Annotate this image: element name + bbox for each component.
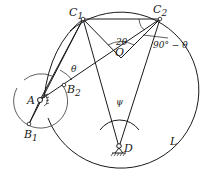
label-psi: ψ xyxy=(116,97,124,107)
psi-arc xyxy=(100,120,139,130)
angle-90-theta-arc xyxy=(139,19,145,30)
line-C1-D xyxy=(83,19,119,147)
label-A: A xyxy=(26,94,35,107)
label-O: O xyxy=(115,46,124,59)
line-A-C2 xyxy=(40,19,160,100)
label-C2: C2 xyxy=(153,3,167,18)
linkage-diagram: C1 C2 A B1 B2 O D L θ 2θ ψ 90° − θ xyxy=(0,0,209,182)
label-D: D xyxy=(123,142,133,155)
label-90-minus-theta: 90° − θ xyxy=(153,40,188,50)
label-B2: B2 xyxy=(66,83,81,98)
tangent-line-C2 xyxy=(143,35,168,38)
label-B1: B1 xyxy=(23,128,38,143)
label-L: L xyxy=(169,135,177,148)
crank-circle xyxy=(14,86,68,128)
label-C1: C1 xyxy=(69,6,83,21)
label-theta: θ xyxy=(71,64,77,74)
label-2theta: 2θ xyxy=(115,37,128,47)
joint-B2 xyxy=(62,83,66,87)
joint-B1 xyxy=(27,122,31,126)
